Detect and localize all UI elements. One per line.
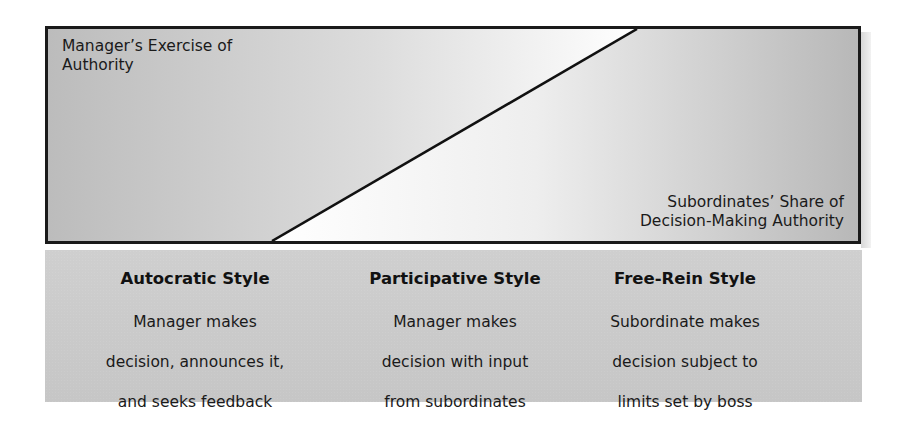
- desc-line: from subordinates: [335, 392, 575, 412]
- manager-authority-label: Manager’s Exercise of Authority: [62, 37, 322, 75]
- leadership-continuum-diagram: Manager’s Exercise of Authority Subordin…: [0, 0, 904, 429]
- subordinates-authority-label: Subordinates’ Share of Decision-Making A…: [544, 193, 844, 231]
- desc-line: Subordinate makes: [585, 312, 785, 332]
- desc-line: decision subject to: [585, 352, 785, 372]
- subordinates-label-line-1: Subordinates’ Share of: [544, 193, 844, 212]
- manager-label-line-1: Manager’s Exercise of: [62, 37, 322, 56]
- leadership-styles-panel: Autocratic Style Manager makes decision,…: [45, 250, 862, 402]
- participative-style-title: Participative Style: [335, 268, 575, 290]
- desc-line: Manager makes: [335, 312, 575, 332]
- subordinates-label-line-2: Decision-Making Authority: [544, 212, 844, 231]
- box-shadow: [861, 32, 871, 248]
- desc-line: Manager makes: [80, 312, 310, 332]
- desc-line: limits set by boss: [585, 392, 785, 412]
- free-rein-style-description: Subordinate makes decision subject to li…: [585, 292, 785, 429]
- autocratic-style-column: Autocratic Style Manager makes decision,…: [80, 268, 310, 429]
- participative-style-column: Participative Style Manager makes decisi…: [335, 268, 575, 429]
- manager-label-line-2: Authority: [62, 56, 322, 75]
- desc-line: decision with input: [335, 352, 575, 372]
- participative-style-description: Manager makes decision with input from s…: [335, 292, 575, 429]
- desc-line: and seeks feedback: [80, 392, 310, 412]
- desc-line: decision, announces it,: [80, 352, 310, 372]
- autocratic-style-description: Manager makes decision, announces it, an…: [80, 292, 310, 429]
- free-rein-style-title: Free-Rein Style: [585, 268, 785, 290]
- authority-continuum-box: Manager’s Exercise of Authority Subordin…: [45, 26, 861, 244]
- autocratic-style-title: Autocratic Style: [80, 268, 310, 290]
- free-rein-style-column: Free-Rein Style Subordinate makes decisi…: [585, 268, 785, 429]
